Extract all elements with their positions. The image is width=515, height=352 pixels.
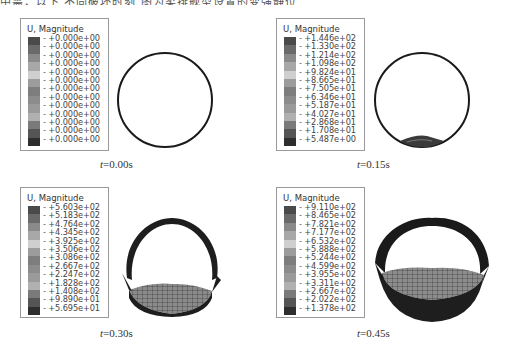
color-scale (28, 206, 40, 315)
legend-values: +0.000e+00 +0.000e+00 +0.000e+00 +0.000e… (43, 34, 100, 143)
time-label: t=0.00s (100, 158, 133, 170)
legend-panel-4: U, Magnitude +9.110e+02 +8.465e+02 +7.82… (276, 187, 365, 318)
color-scale (28, 37, 40, 146)
ring-model-t030 (117, 218, 227, 318)
legend-value: +5.487e+00 (299, 135, 356, 143)
ring-model-t000 (115, 50, 215, 150)
ring-model-t015 (372, 50, 472, 150)
legend-panel-3: U, Magnitude +5.603e+02 +5.183e+02 +4.76… (20, 187, 109, 318)
caption-fragment: 中需，以下 不同破坏时刻 图为柔排舰型设置的变强静位 (0, 0, 515, 5)
legend-panel-1: U, Magnitude +0.000e+00 +0.000e+00 +0.00… (20, 18, 109, 151)
time-label: t=0.30s (100, 327, 133, 339)
legend-value: +0.000e+00 (43, 135, 100, 143)
color-scale (284, 206, 296, 315)
legend-value: +1.378e+02 (299, 304, 356, 312)
ring-model-t045 (372, 218, 492, 323)
legend-value: +5.695e+01 (43, 304, 100, 312)
legend-panel-2: U, Magnitude +1.446e+02 +1.330e+02 +1.21… (276, 18, 365, 151)
time-label: t=0.15s (357, 158, 390, 170)
legend-values: +1.446e+02 +1.330e+02 +1.214e+02 +1.098e… (299, 34, 356, 143)
legend-values: +9.110e+02 +8.465e+02 +7.821e+02 +7.177e… (299, 203, 356, 312)
color-scale (284, 37, 296, 146)
legend-values: +5.603e+02 +5.183e+02 +4.764e+02 +4.345e… (43, 203, 100, 312)
time-label: t=0.45s (357, 327, 390, 339)
figure-page: 中需，以下 不同破坏时刻 图为柔排舰型设置的变强静位 U, Magnitude … (0, 0, 515, 352)
